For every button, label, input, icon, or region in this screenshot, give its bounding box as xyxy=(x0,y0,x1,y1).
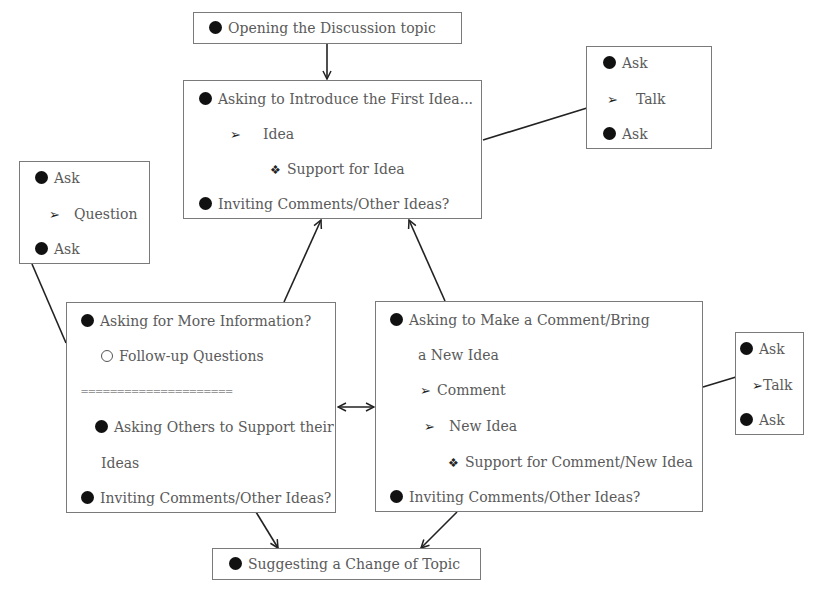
bullet-icon xyxy=(35,171,48,184)
arrowhead-icon: ➢ xyxy=(752,377,763,395)
ask-text: Ask xyxy=(622,55,648,71)
bullet-icon xyxy=(740,342,753,355)
comment-title: Asking to Make a Comment/Bring xyxy=(409,312,650,328)
arrowhead-icon: ➢ xyxy=(49,206,60,224)
ask-text: Ask xyxy=(759,341,785,357)
comment-inviting: Inviting Comments/Other Ideas? xyxy=(409,489,640,505)
first-idea-idea: Idea xyxy=(263,126,294,142)
support-comment-text: Support for Comment/New Idea xyxy=(465,454,693,470)
more-info-title: Asking for More Information? xyxy=(100,313,311,329)
question-text: Question xyxy=(74,206,138,222)
first-idea-inviting: Inviting Comments/Other Ideas? xyxy=(218,196,449,212)
bullet-icon xyxy=(35,242,48,255)
bullet-icon xyxy=(603,127,616,140)
first-idea-support: Support for Idea xyxy=(287,161,405,177)
diamond-icon: ❖ xyxy=(448,454,459,472)
side-box-top-right: Ask ➢Talk Ask xyxy=(586,46,712,149)
bullet-icon xyxy=(199,197,212,210)
ask-text: Ask xyxy=(622,126,648,142)
bullet-icon xyxy=(81,314,94,327)
comment-title-cont: a New Idea xyxy=(418,346,499,364)
arrowhead-icon: ➢ xyxy=(607,91,618,109)
hollow-circle-icon xyxy=(101,350,113,362)
first-idea-box: Asking to Introduce the First Idea... ➢I… xyxy=(183,80,482,219)
ask-text: Ask xyxy=(54,241,80,257)
comment-new-idea-box: Asking to Make a Comment/Bring a New Ide… xyxy=(375,301,703,512)
follow-up-text: Follow-up Questions xyxy=(119,348,264,364)
new-idea-text: New Idea xyxy=(449,418,517,434)
ask-text: Ask xyxy=(54,170,80,186)
more-info-inviting: Inviting Comments/Other Ideas? xyxy=(100,490,331,506)
ask-text: Ask xyxy=(759,412,785,428)
bullet-icon xyxy=(740,413,753,426)
bullet-icon xyxy=(81,491,94,504)
talk-text: Talk xyxy=(636,91,666,107)
arrowhead-icon: ➢ xyxy=(230,126,241,144)
opening-topic-box: Opening the Discussion topic xyxy=(193,12,462,44)
side-box-right: Ask ➢Talk Ask xyxy=(735,332,804,435)
talk-text: Talk xyxy=(763,377,793,393)
support-others-text: Asking Others to Support their xyxy=(114,419,334,435)
bullet-icon xyxy=(390,313,403,326)
bullet-icon xyxy=(199,92,212,105)
change-topic-box: Suggesting a Change of Topic xyxy=(212,548,481,580)
change-topic-text: Suggesting a Change of Topic xyxy=(248,556,460,572)
support-others-text-cont: Ideas xyxy=(101,454,139,472)
comment-text: Comment xyxy=(437,382,506,398)
bullet-icon xyxy=(229,557,242,570)
arrowhead-icon: ➢ xyxy=(424,418,435,436)
bullet-icon xyxy=(95,420,108,433)
bullet-icon xyxy=(209,21,222,34)
first-idea-title: Asking to Introduce the First Idea... xyxy=(218,91,473,107)
arrowhead-icon: ➢ xyxy=(420,382,431,400)
more-information-box: Asking for More Information? Follow-up Q… xyxy=(66,302,336,513)
separator: ===================== xyxy=(81,382,233,400)
opening-topic-text: Opening the Discussion topic xyxy=(228,20,436,36)
bullet-icon xyxy=(603,56,616,69)
side-box-left: Ask ➢Question Ask xyxy=(19,161,150,264)
diamond-icon: ❖ xyxy=(270,161,281,179)
bullet-icon xyxy=(390,490,403,503)
